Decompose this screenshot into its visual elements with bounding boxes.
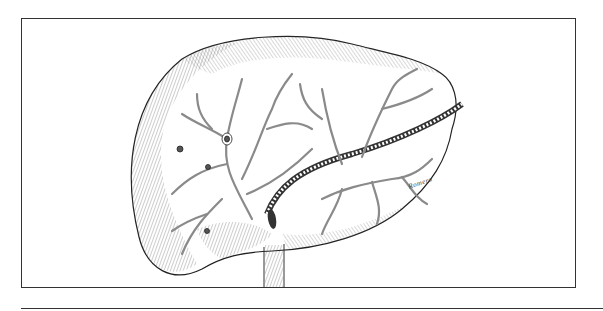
figure-frame: Romero	[21, 18, 576, 288]
vessel-trunk	[264, 244, 284, 287]
liver-illustration	[22, 19, 575, 287]
horizontal-rule	[21, 308, 603, 309]
liver-outline	[131, 36, 456, 274]
